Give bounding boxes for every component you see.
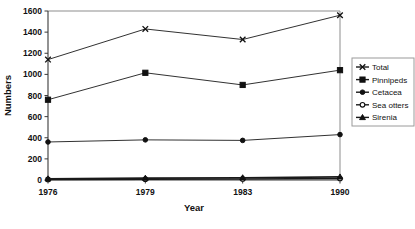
series-line-pinnipeds [48, 70, 340, 100]
data-point-cetacea-1990 [338, 132, 343, 137]
data-point-pinnipeds-1990 [337, 68, 342, 73]
y-tick-label: 1200 [23, 48, 42, 58]
chart-canvas: 0200400600800100012001400160019761979198… [0, 0, 415, 229]
y-tick-label: 0 [37, 175, 42, 185]
x-axis-title: Year [184, 202, 204, 213]
series-line-total [48, 15, 340, 59]
legend-label-pinnipeds: Pinnipeds [372, 76, 407, 85]
data-point-pinnipeds-1983 [240, 82, 245, 87]
legend-label-total: Total [372, 63, 389, 72]
legend-label-sea-otters: Sea otters [372, 101, 408, 110]
x-tick-label: 1979 [136, 187, 155, 197]
data-point-cetacea-1976 [46, 140, 51, 145]
plot-frame [48, 11, 340, 180]
data-point-cetacea-1983 [240, 138, 245, 143]
legend-marker-cetacea [360, 90, 365, 95]
line-chart: 0200400600800100012001400160019761979198… [0, 0, 415, 229]
x-tick-label: 1976 [39, 187, 58, 197]
y-tick-label: 200 [28, 154, 42, 164]
y-tick-label: 1000 [23, 69, 42, 79]
legend-marker-sea-otters [360, 103, 365, 108]
data-point-pinnipeds-1976 [45, 97, 50, 102]
y-tick-label: 1600 [23, 6, 42, 16]
series-line-cetacea [48, 135, 340, 142]
legend-label-cetacea: Cetacea [372, 88, 402, 97]
x-tick-label: 1983 [233, 187, 252, 197]
data-point-pinnipeds-1979 [143, 70, 148, 75]
data-point-cetacea-1979 [143, 138, 148, 143]
y-tick-label: 1400 [23, 27, 42, 37]
y-tick-label: 800 [28, 91, 42, 101]
legend-marker-pinnipeds [360, 77, 365, 82]
y-tick-label: 600 [28, 112, 42, 122]
y-axis-title: Numbers [2, 75, 13, 116]
legend-label-sirenia: Sirenia [372, 113, 397, 122]
y-tick-label: 400 [28, 133, 42, 143]
x-tick-label: 1990 [331, 187, 350, 197]
